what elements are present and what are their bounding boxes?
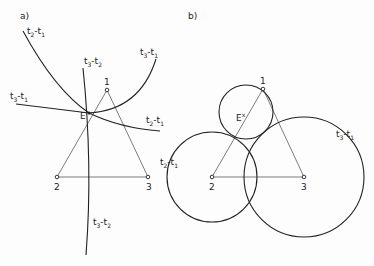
emitter-point-a [88, 112, 91, 115]
triangle-edge-1-2 [57, 90, 107, 177]
figure-graphics [0, 0, 374, 266]
point-3-label-a: 3 [146, 183, 152, 192]
sensor-point-3 [146, 175, 150, 179]
sensor-point-1-b [261, 87, 265, 91]
curve-label-t3-t2-top: t3-t2 [84, 57, 102, 68]
emitter-mark: x [242, 111, 246, 118]
sensor-point-2-b [210, 175, 214, 179]
emitter-label-a: E [80, 112, 86, 121]
sensor-point-2 [55, 175, 59, 179]
tdoa-localization-figure: a) 1 2 3 E t2-t1 t3-t1 t3-t2 t3-t1 t2-t1… [0, 0, 374, 266]
curve-label-t3-t1-left: t3-t1 [10, 92, 28, 103]
point-2-label-b: 2 [209, 183, 215, 192]
panel-b-graphics [167, 85, 364, 237]
curve-label-t2-t1-right: t2-t1 [146, 116, 164, 127]
hyperbola-t3-t1-left [16, 104, 89, 113]
emitter-label-b: Ex [236, 112, 245, 123]
curve-label-t2-t1-top: t2-t1 [27, 27, 45, 38]
point-2-label-a: 2 [54, 183, 60, 192]
point-1-label-a: 1 [104, 78, 110, 87]
hyperbola-t3-t2 [83, 68, 89, 255]
curve-label-t3-t1-right: t3-t1 [140, 48, 158, 59]
circle-label-t3-t1: t3-t1 [336, 130, 354, 141]
sensor-point-1 [105, 88, 109, 92]
panel-a-label: a) [20, 12, 29, 21]
sensor-point-3-b [302, 175, 306, 179]
point-3-label-b: 3 [301, 183, 307, 192]
hyperbola-t2-t1 [23, 31, 160, 131]
curve-label-t3-t2-bottom: t3-t2 [93, 218, 111, 229]
triangle-edge-1-3 [107, 90, 148, 177]
panel-b-label: b) [188, 12, 197, 21]
circle-label-t2-t1: t2-t1 [160, 158, 178, 169]
point-1-label-b: 1 [260, 77, 266, 86]
triangle-edge-1-3-b [263, 89, 304, 177]
